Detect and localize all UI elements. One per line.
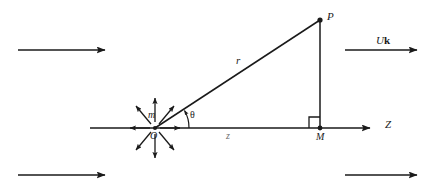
point-marker-m [318,126,323,131]
source-arrow-down-left [136,132,151,150]
source-arrow-down-right [159,132,174,150]
theta-angle-arc [185,111,190,129]
flow-arrow-group [18,50,417,175]
label-flow-velocity-magnitude: U [376,34,384,46]
point-marker-p [317,17,322,22]
label-origin-o: O [150,131,157,141]
label-foot-point-m: M [316,132,324,142]
label-point-p: P [327,11,334,22]
label-flow-velocity-unit-vector: k [384,34,390,46]
label-flow-velocity: Uk [376,35,390,46]
radius-line-op [155,20,320,128]
label-mass-m: m [148,110,155,120]
physics-diagram-figure: P r m O θ z M Z Uk [0,0,439,192]
diagram-canvas [0,0,439,192]
label-axial-distance-z: z [226,131,230,141]
label-axis-z: Z [385,119,391,130]
label-angle-theta: θ [190,110,195,120]
label-radius-r: r [236,55,240,66]
